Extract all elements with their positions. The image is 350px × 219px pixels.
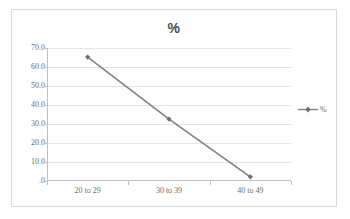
x-axis-tick-label: 40 to 49 — [210, 186, 291, 196]
x-axis-tick — [291, 181, 292, 185]
y-axis-tick-label: 60.0 — [31, 63, 45, 71]
series-line-percent — [47, 48, 291, 181]
chart-title: % — [12, 20, 336, 36]
legend-label-percent: % — [320, 105, 327, 114]
plot-area — [47, 48, 291, 181]
y-axis-tick-label: 20.0 — [31, 139, 45, 147]
chart-frame: % 70.060.050.040.030.020.010.0.0 20 to 2… — [11, 9, 337, 207]
x-axis-tick — [210, 181, 211, 185]
x-axis-tick — [128, 181, 129, 185]
y-axis-tick-labels: 70.060.050.040.030.020.010.0.0 — [12, 48, 45, 181]
chart-legend: % — [298, 105, 327, 114]
x-axis-tick-label: 20 to 29 — [47, 186, 128, 196]
x-axis-tick-labels: 20 to 2930 to 3940 to 49 — [47, 186, 291, 200]
legend-line-marker-icon — [298, 105, 318, 114]
y-axis-tick-label: 30.0 — [31, 120, 45, 128]
x-axis-tick — [47, 181, 48, 185]
y-axis-tick-label: 70.0 — [31, 44, 45, 52]
y-axis-tick-label: 10.0 — [31, 158, 45, 166]
y-axis-tick-label: 50.0 — [31, 82, 45, 90]
x-axis-tick-label: 30 to 39 — [128, 186, 209, 196]
y-axis-tick-label: 40.0 — [31, 101, 45, 109]
